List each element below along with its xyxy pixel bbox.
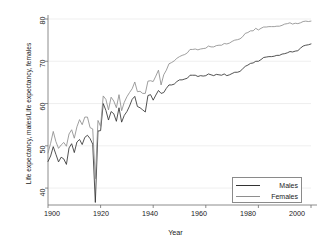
series-lines — [48, 21, 311, 202]
gridlines — [48, 19, 311, 188]
legend-swatch-males — [236, 185, 260, 186]
chart-figure: Life expectancy, males/Life expectancy, … — [0, 0, 328, 252]
legend-swatch-females — [236, 196, 260, 197]
legend-entry-females[interactable]: Females — [236, 191, 300, 202]
plot-area — [0, 0, 328, 252]
legend-label-females: Females — [264, 193, 300, 200]
series-line-females — [48, 21, 311, 179]
legend[interactable]: Males Females — [232, 177, 302, 203]
legend-label-males: Males — [264, 182, 300, 189]
legend-entry-males[interactable]: Males — [236, 180, 300, 191]
